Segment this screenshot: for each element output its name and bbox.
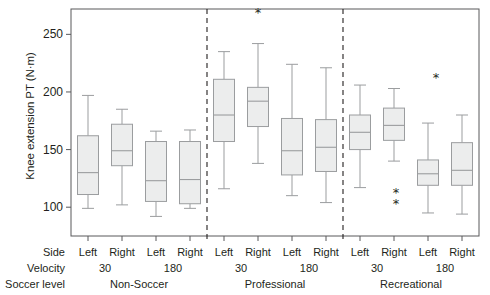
soccer-level-label-2: Recreational xyxy=(380,278,442,290)
velocity-label-5: 180 xyxy=(436,262,454,274)
box-iqr xyxy=(214,79,235,141)
velocity-label-4: 30 xyxy=(371,262,383,274)
box-iqr xyxy=(282,118,303,174)
y-tick-label-250: 250 xyxy=(27,28,63,40)
side-label-8: Left xyxy=(351,246,369,258)
box-plot-item xyxy=(452,115,473,214)
box-iqr xyxy=(248,87,269,126)
significance-marker-1: * xyxy=(433,73,440,83)
side-label-1: Right xyxy=(109,246,135,258)
box-plot-item xyxy=(78,95,99,208)
soccer-level-label-0: Non-Soccer xyxy=(110,278,168,290)
row-header-side: Side xyxy=(0,246,65,258)
box-iqr xyxy=(180,142,201,204)
box-iqr xyxy=(452,143,473,186)
box-iqr xyxy=(146,142,167,202)
significance-marker-3: * xyxy=(393,199,400,209)
box-iqr xyxy=(316,120,337,172)
box-plot-item xyxy=(214,52,235,189)
plot-frame xyxy=(71,9,479,236)
velocity-label-1: 180 xyxy=(164,262,182,274)
box-iqr xyxy=(418,160,439,185)
box-plot-item xyxy=(112,109,133,205)
box-plot-item xyxy=(350,85,371,188)
row-header-soccer-level: Soccer level xyxy=(0,278,65,290)
side-label-11: Right xyxy=(449,246,475,258)
velocity-label-2: 30 xyxy=(235,262,247,274)
y-tick-label-200: 200 xyxy=(27,86,63,98)
box-plot-item xyxy=(316,68,337,203)
box-plot-item xyxy=(384,89,405,162)
significance-marker-0: * xyxy=(255,8,262,18)
box-iqr xyxy=(78,136,99,195)
side-label-9: Right xyxy=(381,246,407,258)
velocity-label-0: 30 xyxy=(99,262,111,274)
side-label-7: Right xyxy=(313,246,339,258)
side-label-5: Right xyxy=(245,246,271,258)
box-iqr xyxy=(112,124,133,165)
velocity-label-3: 180 xyxy=(300,262,318,274)
side-label-6: Left xyxy=(283,246,301,258)
side-label-3: Right xyxy=(177,246,203,258)
y-axis-label: Knee extension PT (N·m) xyxy=(24,16,36,216)
box-plot-item xyxy=(180,130,201,208)
box-iqr xyxy=(384,108,405,140)
box-plot-item xyxy=(418,123,439,213)
side-label-2: Left xyxy=(147,246,165,258)
box-plot-item xyxy=(282,64,303,195)
soccer-level-label-1: Professional xyxy=(245,278,306,290)
y-tick-label-150: 150 xyxy=(27,144,63,156)
side-label-4: Left xyxy=(215,246,233,258)
row-header-velocity: Velocity xyxy=(0,262,65,274)
box-plot-item xyxy=(146,131,167,216)
side-label-0: Left xyxy=(79,246,97,258)
y-tick-label-100: 100 xyxy=(27,201,63,213)
side-label-10: Left xyxy=(419,246,437,258)
box-plot-item xyxy=(248,44,269,164)
boxplot-figure: Knee extension PT (N·m) 100150200250Side… xyxy=(0,0,490,295)
